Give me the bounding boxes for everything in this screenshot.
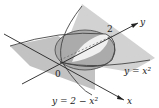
origin-label: 0: [55, 69, 61, 79]
y-axis-arrow-icon: [131, 23, 138, 28]
y-axis-label: y: [139, 17, 146, 27]
surface-label-y-eq-x2: y = x²: [123, 66, 151, 76]
y-tick-label: 2: [107, 24, 113, 34]
surface-label-y-eq-2-minus-x2: y = 2 − x²: [51, 96, 98, 106]
diagram-canvas: y x 0 2 y = x² y = 2 − x²: [0, 0, 159, 108]
x-axis-label: x: [127, 96, 132, 106]
x-axis-arrow-icon: [117, 95, 124, 100]
